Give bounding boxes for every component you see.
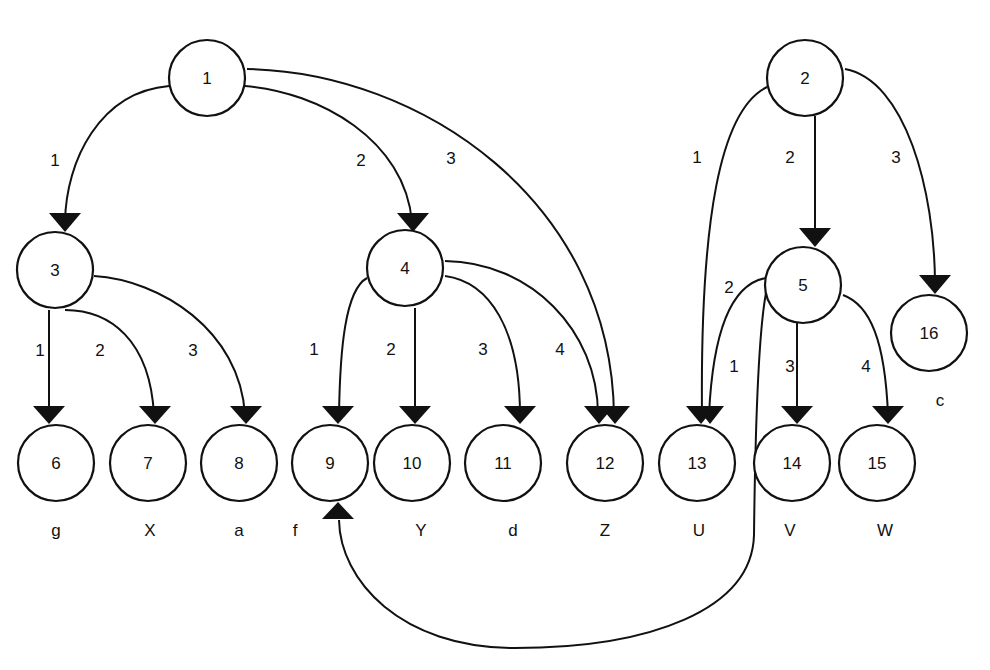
leaf-label-10: Y [415,521,426,540]
node-13: 13 [659,425,735,501]
node-4: 4 [367,230,443,306]
edge-label-4-12: 4 [555,340,564,359]
edge-2-5 [799,116,831,247]
node-label: 6 [51,454,60,473]
arrowhead-icon [781,406,813,424]
edge-5-13 [696,278,766,424]
edge-4-10 [399,308,431,424]
node-6: 6 [18,425,94,501]
arrowhead-icon [139,406,171,424]
node-3: 3 [17,232,93,308]
edge-label-4-9: 1 [309,340,318,359]
edge-3-7 [65,310,171,424]
node-label: 2 [800,69,809,88]
node-label: 1 [202,69,211,88]
node-8: 8 [201,425,277,501]
edge-2-16 [845,69,951,294]
edge-3-6 [33,310,65,424]
node-label: 3 [50,261,59,280]
node-1: 1 [169,40,245,116]
edge-label-3-7: 2 [95,341,104,360]
edge-4-9 [322,278,367,424]
arrowhead-icon [33,406,65,424]
edge-2-13 [686,87,767,424]
edge-1-3 [49,86,169,232]
node-label: 8 [234,454,243,473]
node-label: 16 [920,324,939,343]
node-label: 9 [325,454,334,473]
edge-label-5-9: 1 [729,357,738,376]
edge-1-12 [247,69,630,424]
edge-4-11 [445,276,536,424]
edge-label-5-15: 4 [861,357,870,376]
leaf-label-7: X [144,521,155,540]
node-label: 13 [688,454,707,473]
node-14: 14 [754,425,830,501]
node-11: 11 [465,425,541,501]
edge-label-4-11: 3 [478,340,487,359]
leaf-label-11: d [508,521,517,540]
node-label: 4 [400,259,409,278]
arrowhead-icon [399,406,431,424]
edge-label-1-12: 3 [446,149,455,168]
nodes: 12345166789101112131415 [17,40,967,501]
edge-1-4 [245,86,429,232]
node-15: 15 [839,425,915,501]
arrowhead-icon [230,406,262,424]
node-16: 16 [891,295,967,371]
arrowhead-icon [322,406,354,424]
node-5: 5 [765,247,841,323]
leaf-label-6: g [51,521,60,540]
arrowhead-icon [919,275,951,294]
edge-label-3-8: 3 [188,341,197,360]
leaf-label-9: f [293,521,298,540]
node-10: 10 [374,425,450,501]
graph-diagram: 12312312312342134 1234516678910111213141… [0,0,990,670]
edge-label-1-3: 1 [50,151,59,170]
node-label: 7 [143,454,152,473]
leaf-label-14: V [784,521,796,540]
node-label: 11 [494,454,512,473]
edge-labels: 12312312312342134 [35,148,900,376]
node-label: 10 [403,454,422,473]
leaf-label-16: c [936,391,945,410]
edge-label-1-4: 2 [356,151,365,170]
leaf-label-15: W [877,521,893,540]
arrowhead-icon [872,406,904,424]
arrowhead-icon [504,406,536,424]
edge-label-2-16: 3 [891,148,900,167]
leaf-label-12: Z [600,521,610,540]
node-label: 12 [596,454,615,473]
edge-label-5-13: 2 [724,278,733,297]
node-7: 7 [110,425,186,501]
node-label: 14 [783,454,802,473]
edge-label-4-10: 2 [386,340,395,359]
node-label: 15 [868,454,887,473]
edge-3-8 [94,276,262,424]
edge-label-5-14: 3 [785,357,794,376]
arrowhead-icon [322,502,354,519]
arrowhead-icon [799,228,831,247]
leaf-label-13: U [693,521,705,540]
node-12: 12 [567,425,643,501]
edge-label-3-6: 1 [35,341,44,360]
leaf-label-8: a [234,521,244,540]
node-2: 2 [767,40,843,116]
edge-label-2-13: 1 [692,148,701,167]
node-label: 5 [798,276,807,295]
edge-label-2-5: 2 [785,148,794,167]
node-9: 9 [292,425,368,501]
arrowhead-icon [49,213,81,232]
